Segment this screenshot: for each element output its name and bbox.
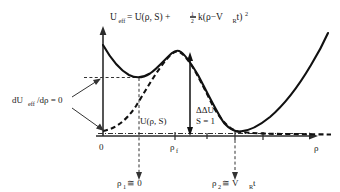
title-fraction-numerator: 1: [191, 11, 194, 17]
barrier-arrow-head-bottom: [187, 127, 193, 136]
rho-2-annotation: ρ 2 ≅ V R t: [212, 178, 256, 190]
derivative-leader-lower: [72, 108, 100, 128]
title-lhs-subscript: eff: [119, 17, 127, 24]
derivative-annotation-main: dU: [12, 95, 24, 105]
title-rhs-tail: t): [237, 12, 243, 23]
rho-1-subscript: 1: [123, 183, 126, 190]
rho-2-main: ρ: [212, 178, 217, 188]
rho-1-main: ρ: [117, 178, 122, 188]
barrier-label-line1: ΔΔU: [196, 105, 215, 115]
barrier-label-line2: S = 1: [196, 116, 215, 126]
derivative-annotation-tail: /dρ = 0: [37, 95, 63, 105]
derivative-leader-upper: [72, 81, 97, 97]
curve-bare-potential: [103, 52, 331, 135]
rho-1-annotation: ρ 1 ≅ 0: [117, 178, 142, 190]
tick-label-origin: 0: [99, 142, 104, 152]
y-axis-arrowhead: [100, 26, 107, 35]
rho-1-tail: ≅ 0: [127, 178, 142, 188]
diagram-canvas: U eff = U(ρ, S) + 1 2 k(ρ−V R t) 2: [0, 0, 340, 192]
potential-energy-diagram: U eff = U(ρ, S) + 1 2 k(ρ−V R t) 2: [0, 0, 340, 192]
title-rhs-superscript: 2: [245, 10, 248, 17]
barrier-arrow-head-top: [187, 52, 193, 61]
tick-label-rho-f: ρ: [170, 142, 175, 152]
title-fraction-denominator: 2: [191, 18, 194, 24]
title-rhs: k(ρ−V: [198, 12, 223, 23]
title-lhs: U: [110, 12, 117, 22]
barrier-label: ΔΔU S = 1: [196, 105, 215, 126]
rho-2-subscript: 2: [218, 183, 221, 190]
x-axis-label: ρ: [314, 143, 319, 153]
rho-2-tail-end: t: [253, 178, 256, 188]
bare-potential-label: U(ρ, S): [140, 116, 167, 126]
curve-effective-potential: [103, 33, 328, 132]
derivative-annotation: dU eff /dρ = 0: [12, 79, 104, 132]
title-equals-term: = U(ρ, S) +: [127, 12, 170, 23]
derivative-annotation-subscript: eff: [28, 100, 36, 107]
tick-label-rho-f-subscript: f: [176, 147, 179, 154]
derivative-leader-upper-arrowhead: [93, 79, 101, 86]
title-formula: U eff = U(ρ, S) + 1 2 k(ρ−V R t) 2: [110, 10, 248, 25]
rho-2-tail: ≅ V: [222, 178, 239, 188]
